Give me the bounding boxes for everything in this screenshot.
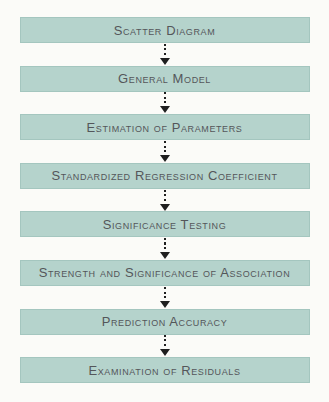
- flow-step-prediction-accuracy: Prediction Accuracy: [20, 309, 310, 335]
- down-arrow-icon: [160, 286, 170, 309]
- arrow-head: [160, 155, 170, 162]
- dotted-line: [164, 238, 166, 251]
- down-arrow-icon: [160, 43, 170, 66]
- flow-step-significance-testing: Significance Testing: [20, 211, 310, 237]
- arrow-head: [160, 349, 170, 356]
- arrow-head: [160, 252, 170, 259]
- flow-step-label: General Model: [118, 71, 211, 86]
- down-arrow-icon: [160, 92, 170, 115]
- flow-step-strength-and-significance-of-association: Strength and Significance of Association: [20, 260, 310, 286]
- flow-step-label: Scatter Diagram: [114, 23, 216, 38]
- dotted-line: [164, 44, 166, 57]
- down-arrow-icon: [160, 189, 170, 212]
- flow-step-label: Strength and Significance of Association: [39, 265, 291, 280]
- down-arrow-icon: [160, 237, 170, 260]
- arrow-head: [160, 301, 170, 308]
- flow-step-label: Standardized Regression Coefficient: [51, 168, 277, 183]
- flow-step-label: Prediction Accuracy: [102, 314, 228, 329]
- flow-step-standardized-regression-coefficient: Standardized Regression Coefficient: [20, 163, 310, 189]
- down-arrow-icon: [160, 335, 170, 358]
- flow-step-label: Examination of Residuals: [88, 363, 240, 378]
- arrow-head: [160, 58, 170, 65]
- flow-step-label: Significance Testing: [103, 217, 227, 232]
- dotted-line: [164, 287, 166, 300]
- dotted-line: [164, 335, 166, 348]
- arrow-head: [160, 204, 170, 211]
- flow-step-label: Estimation of Parameters: [87, 120, 243, 135]
- flow-step-estimation-of-parameters: Estimation of Parameters: [20, 114, 310, 140]
- arrow-head: [160, 106, 170, 113]
- flowchart-diagram: Scatter Diagram General Model Estimation…: [0, 0, 329, 402]
- flow-step-general-model: General Model: [20, 66, 310, 92]
- down-arrow-icon: [160, 140, 170, 163]
- flow-step-examination-of-residuals: Examination of Residuals: [20, 357, 310, 383]
- dotted-line: [164, 141, 166, 154]
- dotted-line: [164, 190, 166, 203]
- dotted-line: [164, 92, 166, 105]
- flow-step-scatter-diagram: Scatter Diagram: [20, 17, 310, 43]
